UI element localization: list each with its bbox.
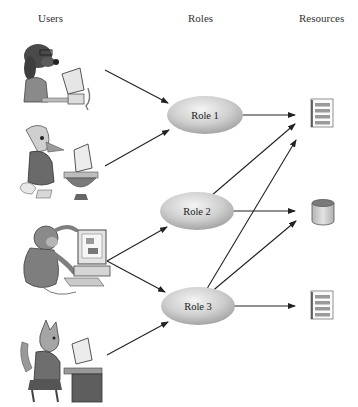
arrow-user3-role2 xyxy=(107,227,167,261)
resource-1-document-icon xyxy=(311,99,333,127)
role-1-node: Role 1 xyxy=(167,96,243,134)
resource-3-document-icon xyxy=(311,291,333,319)
user-4-cat-at-computer-icon xyxy=(21,320,102,402)
user-3-monkey-at-computer-icon xyxy=(24,226,110,294)
role-1-label: Role 1 xyxy=(191,110,219,121)
role-2-node: Role 2 xyxy=(160,192,234,230)
arrow-user2-role1 xyxy=(105,130,169,166)
arrow-user3-role3 xyxy=(107,261,165,292)
resource-2-database-icon xyxy=(312,200,334,226)
user-role-arrows xyxy=(105,70,169,355)
arrow-user1-role1 xyxy=(105,70,168,103)
arrow-user4-role3 xyxy=(107,322,168,355)
role-3-node: Role 3 xyxy=(161,287,235,325)
arrow-role3-resource2 xyxy=(210,221,296,293)
rbac-diagram: Role 1 Role 2 Role 3 xyxy=(0,0,358,407)
role-2-label: Role 2 xyxy=(183,206,211,217)
user-2-duck-at-computer-icon xyxy=(20,125,98,200)
role-3-label: Role 3 xyxy=(184,301,212,312)
user-1-dog-at-computer-icon xyxy=(24,44,90,110)
arrow-role2-resource1 xyxy=(211,124,295,196)
